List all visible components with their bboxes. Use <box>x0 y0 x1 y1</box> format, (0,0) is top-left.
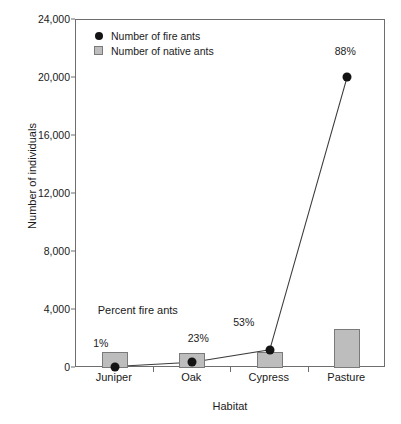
y-tick-label: 12,000 <box>38 187 70 199</box>
percent-label-juniper: 1% <box>93 337 108 349</box>
plot-area: 1%23%53%88% Percent fire ants Number of … <box>75 19 385 367</box>
bar-cypress <box>257 352 283 368</box>
x-tick-label-juniper: Juniper <box>96 371 132 383</box>
data-point-pasture <box>343 72 352 81</box>
y-tick-label: 24,000 <box>38 13 70 25</box>
legend-label-fire-ants: Number of fire ants <box>111 30 200 42</box>
y-tick-label: 8,000 <box>44 245 70 257</box>
x-tick-label-oak: Oak <box>181 371 201 383</box>
y-axis-title: Number of individuals <box>26 76 38 276</box>
legend-item-native-ants: Number of native ants <box>92 43 214 58</box>
x-tick-label-pasture: Pasture <box>327 371 365 383</box>
y-tick-label: 20,000 <box>38 71 70 83</box>
x-tick-label-cypress: Cypress <box>249 371 289 383</box>
bar-pasture <box>334 329 360 368</box>
square-marker-icon <box>92 44 105 57</box>
percent-fire-ants-annotation: Percent fire ants <box>98 304 178 316</box>
percent-label-oak: 23% <box>188 332 209 344</box>
y-tick-label: 0 <box>64 361 70 373</box>
x-axis-labels: JuniperOakCypressPasture <box>75 371 385 389</box>
data-point-cypress <box>265 345 274 354</box>
chart-figure: Number of individuals Habitat 04,0008,00… <box>0 0 401 424</box>
percent-label-cypress: 53% <box>233 316 254 328</box>
y-tick-label: 4,000 <box>44 303 70 315</box>
percent-label-pasture: 88% <box>335 45 356 57</box>
data-point-oak <box>188 358 197 367</box>
legend-label-native-ants: Number of native ants <box>111 45 214 57</box>
x-axis-title: Habitat <box>75 400 385 412</box>
chart-legend: Number of fire ants Number of native ant… <box>92 28 214 58</box>
y-tick-label: 16,000 <box>38 129 70 141</box>
legend-item-fire-ants: Number of fire ants <box>92 28 214 43</box>
circle-marker-icon <box>92 29 105 42</box>
